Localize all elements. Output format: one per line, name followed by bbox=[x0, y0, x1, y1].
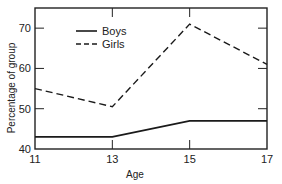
y-axis-title: Percentage of group bbox=[6, 42, 17, 133]
legend: Boys Girls bbox=[76, 25, 127, 50]
legend-boys-label: Boys bbox=[102, 25, 127, 37]
series-line-girls bbox=[35, 24, 267, 107]
x-tick-label: 17 bbox=[261, 153, 273, 165]
y-tick-label: 50 bbox=[19, 103, 31, 115]
axis-ticks bbox=[35, 8, 267, 149]
x-tick-label: 15 bbox=[184, 153, 196, 165]
x-tick-label: 13 bbox=[106, 153, 118, 165]
data-series bbox=[35, 24, 267, 137]
plot-border bbox=[35, 8, 267, 149]
legend-girls-label: Girls bbox=[102, 38, 125, 50]
y-tick-label: 70 bbox=[19, 22, 31, 34]
x-tick-label: 11 bbox=[29, 153, 40, 165]
x-axis-title: Age bbox=[126, 169, 144, 180]
plot-frame bbox=[35, 8, 267, 149]
line-chart: 4050607011131517 Boys Girls Age Percenta… bbox=[0, 0, 282, 184]
y-tick-label: 60 bbox=[19, 62, 31, 74]
series-line-boys bbox=[35, 121, 267, 137]
